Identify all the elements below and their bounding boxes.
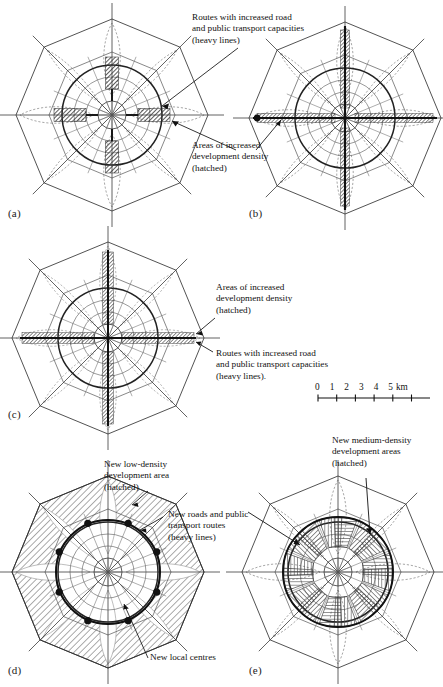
- annotation-a-areas-line1: Areas of increased: [192, 140, 268, 151]
- annotation-e-mediumdensity-line1: New medium-density: [332, 435, 411, 446]
- annotation-d-lowdensity: New low-density development area (hatche…: [104, 459, 169, 493]
- scale-tick-1: 1: [330, 382, 335, 392]
- annotation-c-routes-line2: and public transport capacities: [216, 359, 328, 370]
- annotation-d-localcentres: New local centres: [150, 652, 216, 663]
- annotation-d-newroads: New roads and public transport routes (h…: [168, 509, 248, 543]
- annotation-c-routes: Routes with increased road and public tr…: [216, 348, 328, 382]
- terminus-marker-b: [254, 115, 261, 122]
- annotation-e-mediumdensity-line2: development areas: [332, 446, 411, 457]
- annotation-c-areas-line1: Areas of increased: [216, 282, 292, 293]
- scale-bar-graphic: [318, 395, 430, 402]
- figure-svg: [0, 0, 443, 687]
- figure-canvas: Routes with increased road and public tr…: [0, 0, 443, 687]
- panel-label-a: (a): [8, 207, 21, 219]
- annotation-a-areas-line3: (hatched): [192, 163, 268, 174]
- annotation-c-routes-line3: (heavy lines).: [216, 371, 328, 382]
- annotation-d-lowdensity-line1: New low-density: [104, 459, 169, 470]
- scale-unit: km: [396, 382, 408, 392]
- annotation-a-areas: Areas of increased development density (…: [192, 140, 268, 174]
- annotation-e-mediumdensity: New medium-density development areas (ha…: [332, 435, 411, 469]
- scale-tick-2: 2: [344, 382, 349, 392]
- scale-tick-5: 5: [388, 382, 393, 392]
- annotation-e-mediumdensity-line3: (hatched): [332, 458, 411, 469]
- annotation-d-localcentres-line1: New local centres: [150, 652, 216, 663]
- panel-label-c: (c): [8, 408, 21, 420]
- annotation-d-newroads-line3: (heavy lines): [168, 532, 248, 543]
- panel-d-diagram: [0, 460, 220, 684]
- panel-label-d: (d): [8, 664, 21, 676]
- annotation-c-areas: Areas of increased development density (…: [216, 282, 292, 316]
- panel-e-diagram: [226, 460, 443, 684]
- annotation-c-areas-line3: (hatched): [216, 305, 292, 316]
- annotation-d-lowdensity-line2: development area: [104, 470, 169, 481]
- annotation-d-newroads-line1: New roads and public: [168, 509, 248, 520]
- annotation-d-lowdensity-line3: (hatched): [104, 482, 169, 493]
- panel-c-diagram: [0, 226, 220, 450]
- panel-label-e: (e): [249, 664, 262, 676]
- annotation-c-areas-line2: development density: [216, 293, 292, 304]
- annotation-a-areas-line2: development density: [192, 151, 268, 162]
- city-skeleton-e: [226, 460, 443, 684]
- annotation-d-newroads-line2: transport routes: [168, 520, 248, 531]
- annotation-a-routes-line3: (heavy lines): [192, 35, 304, 46]
- scale-tick-3: 3: [359, 382, 364, 392]
- scale-tick-0: 0: [315, 382, 320, 392]
- scale-tick-4: 4: [374, 382, 379, 392]
- annotation-c-routes-line1: Routes with increased road: [216, 348, 328, 359]
- panel-label-b: (b): [249, 207, 262, 219]
- scale-bar-labels: 012345km: [315, 382, 408, 392]
- annotation-a-routes: Routes with increased road and public tr…: [192, 12, 304, 46]
- city-skeleton-a: [0, 3, 224, 227]
- leader-lines-c: [196, 318, 215, 352]
- panel-a-diagram: [0, 3, 224, 227]
- annotation-a-routes-line1: Routes with increased road: [192, 12, 304, 23]
- annotation-a-routes-line2: and public transport capacities: [192, 23, 304, 34]
